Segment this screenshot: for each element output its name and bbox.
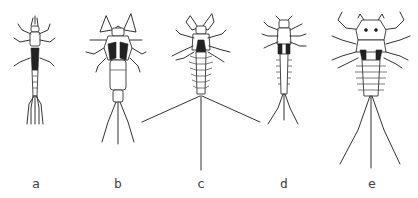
nymph-c-drawing bbox=[142, 14, 260, 170]
nymph-d-drawing bbox=[262, 16, 306, 124]
label-b: b bbox=[114, 176, 122, 191]
nymph-illustrations bbox=[0, 0, 418, 198]
label-a: a bbox=[32, 176, 40, 191]
label-e: e bbox=[368, 176, 376, 191]
label-d: d bbox=[280, 176, 288, 191]
nymph-a-drawing bbox=[14, 16, 55, 124]
label-c: c bbox=[197, 176, 205, 191]
nymph-e-drawing bbox=[332, 12, 410, 168]
nymph-b-drawing bbox=[86, 14, 146, 144]
figure: a b c d e bbox=[0, 0, 418, 198]
